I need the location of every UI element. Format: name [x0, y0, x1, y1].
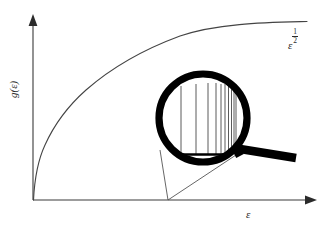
y-axis	[29, 14, 38, 200]
figure-density-of-states: g(ε) ε ε12	[0, 0, 330, 232]
y-axis-label: g(ε)	[8, 81, 19, 98]
curve-annotation-label: ε12	[288, 29, 298, 51]
y-axis-arrowhead	[29, 14, 38, 26]
magnifying-glass	[159, 74, 296, 162]
x-axis-arrowhead	[305, 195, 317, 204]
callout-line-left	[160, 150, 168, 200]
magnifier-handle	[234, 148, 296, 158]
x-axis	[33, 195, 317, 204]
figure-canvas	[0, 0, 330, 232]
exponent-denominator: 2	[292, 37, 298, 45]
curve-annotation-exponent: 12	[292, 28, 298, 45]
x-axis-label: ε	[246, 209, 250, 220]
